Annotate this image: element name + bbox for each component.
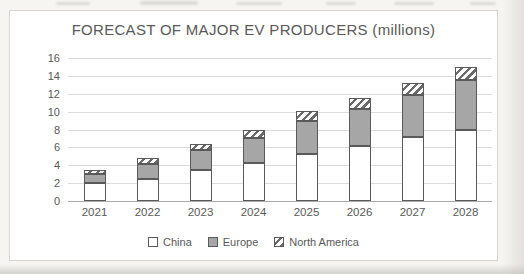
bar-segment-europe-2021 [84, 174, 106, 183]
chart-card: FORECAST OF MAJOR EV PRODUCERS (millions… [9, 10, 498, 261]
legend-swatch-icon [274, 237, 284, 247]
legend-item-north-america: North America [274, 236, 359, 248]
legend-item-europe: Europe [208, 236, 258, 248]
legend-swatch-icon [208, 237, 218, 247]
x-axis-tick-label: 2027 [386, 206, 439, 218]
bar-segment-china-2021 [84, 183, 106, 201]
y-axis-tick-label: 0 [30, 196, 60, 207]
y-axis-tick-label: 16 [30, 53, 60, 64]
x-axis-tick-label: 2023 [174, 206, 227, 218]
bar-segment-north-america-2021 [84, 170, 106, 174]
bar-segment-north-america-2022 [137, 158, 159, 164]
bar-segment-china-2023 [190, 170, 212, 201]
bar-segment-north-america-2023 [190, 144, 212, 150]
x-axis-line [68, 201, 492, 202]
gridline [68, 165, 492, 166]
y-axis-tick-label: 14 [30, 71, 60, 82]
y-axis-tick-label: 12 [30, 89, 60, 100]
gridline [68, 58, 492, 59]
bar-segment-europe-2025 [296, 121, 318, 153]
legend-label: Europe [223, 236, 258, 248]
legend-item-china: China [148, 236, 192, 248]
y-axis-tick-label: 6 [30, 142, 60, 153]
gridline [68, 112, 492, 113]
bar-segment-europe-2024 [243, 138, 265, 162]
scan-artifact [56, 2, 90, 5]
legend-label: China [163, 236, 192, 248]
bar-segment-north-america-2026 [349, 98, 371, 109]
bar-segment-europe-2023 [190, 150, 212, 170]
bar-segment-europe-2026 [349, 109, 371, 146]
chart-legend: ChinaEuropeNorth America [10, 236, 497, 248]
bar-segment-north-america-2024 [243, 130, 265, 139]
bar-segment-china-2028 [455, 130, 477, 202]
gridline [68, 94, 492, 95]
x-axis-tick-label: 2021 [68, 206, 121, 218]
bar-segment-china-2027 [402, 137, 424, 201]
gridline [68, 130, 492, 131]
legend-swatch-icon [148, 237, 158, 247]
scan-artifact [326, 2, 356, 5]
bar-segment-europe-2027 [402, 95, 424, 137]
plot-area: 0246810121416202120222023202420252026202… [68, 58, 492, 201]
scan-artifact [140, 1, 198, 5]
x-axis-tick-label: 2026 [333, 206, 386, 218]
y-axis-tick-label: 8 [30, 125, 60, 136]
gridline [68, 76, 492, 77]
photo-edge-shading [502, 0, 524, 274]
bar-segment-europe-2028 [455, 80, 477, 129]
legend-label: North America [289, 236, 359, 248]
scan-artifact [236, 2, 282, 5]
gridline [68, 147, 492, 148]
bar-segment-china-2026 [349, 146, 371, 201]
y-axis-tick-label: 10 [30, 107, 60, 118]
bar-segment-north-america-2025 [296, 111, 318, 122]
photo-edge-shading [0, 264, 524, 274]
bar-segment-north-america-2027 [402, 83, 424, 95]
scan-artifact [394, 2, 434, 5]
bar-segment-china-2022 [137, 179, 159, 201]
gridline [68, 183, 492, 184]
bar-segment-europe-2022 [137, 164, 159, 178]
bar-segment-north-america-2028 [455, 67, 477, 80]
chart-title: FORECAST OF MAJOR EV PRODUCERS (millions… [10, 21, 497, 38]
scan-artifact [470, 2, 496, 5]
bar-segment-china-2024 [243, 163, 265, 201]
x-axis-tick-label: 2025 [280, 206, 333, 218]
x-axis-tick-label: 2028 [439, 206, 492, 218]
x-axis-tick-label: 2024 [227, 206, 280, 218]
y-axis-tick-label: 2 [30, 178, 60, 189]
bar-segment-china-2025 [296, 154, 318, 201]
y-axis-tick-label: 4 [30, 160, 60, 171]
screenshot-root: { "chart_data": { "type": "bar", "stacke… [0, 0, 524, 274]
x-axis-tick-label: 2022 [121, 206, 174, 218]
